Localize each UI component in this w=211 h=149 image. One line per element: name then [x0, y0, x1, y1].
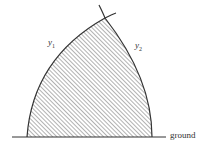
label-y1: y1 [48, 37, 55, 49]
label-ground: ground [170, 130, 196, 140]
diagram [0, 0, 211, 149]
label-y2: y2 [135, 40, 142, 52]
label-y1-sub: 1 [52, 43, 55, 49]
shaded-region [27, 18, 152, 137]
label-y2-sub: 2 [139, 46, 142, 52]
